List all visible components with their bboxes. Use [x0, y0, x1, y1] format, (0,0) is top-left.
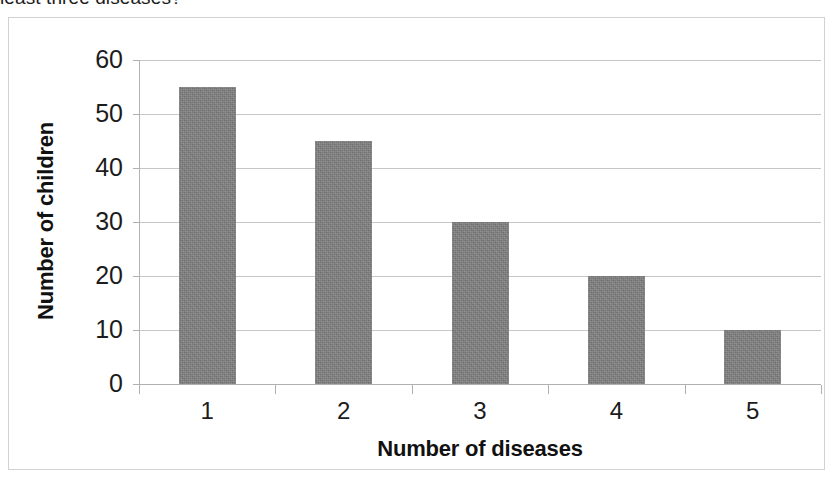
bar-3[interactable]	[452, 222, 509, 384]
y-tick-50	[133, 114, 140, 115]
bar-5[interactable]	[724, 330, 781, 384]
bar-1[interactable]	[179, 87, 236, 384]
y-tick-0	[133, 384, 140, 385]
x-tick-0	[139, 385, 140, 394]
y-axis-label-30: 30	[63, 209, 123, 234]
y-tick-30	[133, 222, 140, 223]
y-axis-label-50: 50	[63, 101, 123, 126]
x-axis-title: Number of diseases	[139, 436, 821, 462]
y-tick-60	[133, 60, 140, 61]
gridline-40	[139, 168, 821, 169]
bar-2[interactable]	[315, 141, 372, 384]
x-tick-5	[821, 385, 822, 394]
y-axis-label-20: 20	[63, 263, 123, 288]
x-axis-label-5: 5	[685, 399, 821, 423]
x-tick-4	[685, 385, 686, 394]
x-axis-label-3: 3	[412, 399, 548, 423]
gridline-50	[139, 114, 821, 115]
x-tick-3	[548, 385, 549, 394]
x-axis-label-2: 2	[276, 399, 412, 423]
x-axis-label-1: 1	[139, 399, 275, 423]
y-axis-label-60: 60	[63, 47, 123, 72]
gridline-60	[139, 60, 821, 61]
bar-4[interactable]	[588, 276, 645, 384]
gridline-0	[139, 384, 821, 385]
y-axis-label-0: 0	[63, 371, 123, 396]
plot-area	[139, 60, 821, 384]
x-tick-1	[275, 385, 276, 394]
cutoff-question-text: least three diseases?	[0, 0, 420, 13]
y-tick-10	[133, 330, 140, 331]
y-axis-tick-labels: 6050403020100	[57, 18, 123, 483]
y-tick-20	[133, 276, 140, 277]
x-tick-2	[412, 385, 413, 394]
y-tick-40	[133, 168, 140, 169]
y-axis-title: Number of children	[33, 91, 59, 351]
y-axis-label-10: 10	[63, 317, 123, 342]
y-axis-label-40: 40	[63, 155, 123, 180]
x-axis-label-4: 4	[548, 399, 684, 423]
chart-frame: Number of children 6050403020100 12345 N…	[8, 17, 825, 470]
